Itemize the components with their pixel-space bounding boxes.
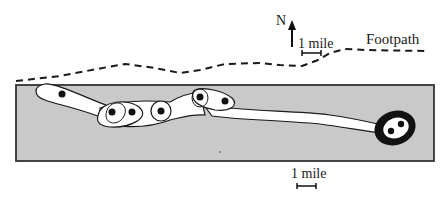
north-arrow-icon [288, 20, 296, 47]
single-dot-loop [151, 101, 171, 121]
bottom-scale-bar [297, 183, 316, 189]
compass-label: N [276, 13, 286, 28]
bottom-scale-label: 1 mile [291, 166, 326, 181]
dot [59, 91, 66, 98]
map-diagram: Footpath N 1 mile [0, 0, 446, 199]
footpath-line [16, 49, 425, 81]
speck [219, 151, 221, 153]
top-scale-label: 1 mile [298, 36, 333, 51]
footpath-label: Footpath [366, 31, 420, 47]
